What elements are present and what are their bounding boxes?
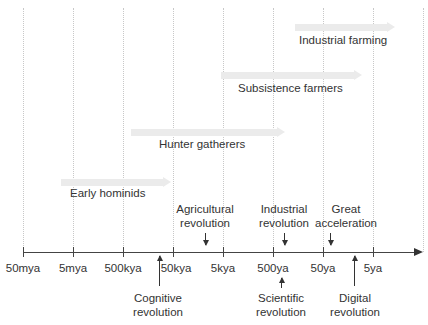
- band-label-industrial-farming: Industrial farming: [299, 34, 387, 46]
- time-axis: [23, 252, 417, 253]
- event-agricultural-revolution: Agricultural revolution: [160, 202, 250, 230]
- band-label-hunter-gatherers: Hunter gatherers: [159, 138, 245, 150]
- up-arrow-icon: [159, 256, 160, 286]
- band-early-hominids: [61, 179, 163, 186]
- band-subsistence-farmers: [221, 72, 354, 79]
- axis-tick-label: 500kya: [93, 262, 153, 274]
- axis-tick: [23, 247, 24, 257]
- gridline: [123, 8, 124, 252]
- up-arrow-icon: [281, 278, 282, 288]
- axis-tick: [73, 247, 74, 257]
- event-label: revolution: [160, 216, 250, 230]
- gridline: [73, 8, 74, 252]
- event-label: Great: [301, 202, 391, 216]
- up-arrow-icon: [354, 256, 355, 286]
- axis-tick-label: 5ya: [343, 262, 403, 274]
- event-label: revolution: [310, 305, 400, 319]
- band-label-early-hominids: Early hominids: [70, 187, 145, 199]
- event-great-acceleration: Great acceleration: [301, 202, 391, 230]
- down-arrow-icon: [284, 233, 285, 245]
- axis-tick: [273, 247, 274, 257]
- axis-tick: [123, 247, 124, 257]
- event-label: Agricultural: [160, 202, 250, 216]
- axis-tick: [323, 247, 324, 257]
- event-label: revolution: [113, 305, 203, 319]
- band-label-subsistence-farmers: Subsistence farmers: [238, 82, 343, 94]
- gridline: [23, 8, 24, 252]
- band-industrial-farming: [295, 24, 387, 31]
- axis-arrowhead-icon: [414, 248, 423, 256]
- axis-tick: [373, 247, 374, 257]
- down-arrow-icon: [205, 233, 206, 245]
- axis-tick: [223, 247, 224, 257]
- gridline: [423, 8, 424, 252]
- band-hunter-gatherers: [131, 129, 277, 136]
- axis-tick: [173, 247, 174, 257]
- down-arrow-icon: [330, 233, 331, 245]
- event-label: Digital: [310, 291, 400, 305]
- event-cognitive-revolution: Cognitive revolution: [113, 291, 203, 319]
- event-label: Cognitive: [113, 291, 203, 305]
- event-label: acceleration: [301, 216, 391, 230]
- event-digital-revolution: Digital revolution: [310, 291, 400, 319]
